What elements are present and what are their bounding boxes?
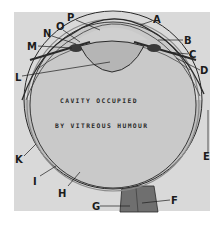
eye-cross-section-diagram: CAVITY OCCUPIED BY VITREOUS HUMOUR A B C…	[0, 0, 224, 227]
caption-line-2: BY VITREOUS HUMOUR	[55, 122, 148, 129]
label-e: E	[203, 151, 210, 162]
label-p: P	[67, 12, 74, 23]
label-m: M	[27, 41, 37, 52]
ciliary-body-right	[147, 44, 161, 52]
label-i: I	[33, 176, 37, 187]
label-b: B	[184, 35, 192, 46]
label-g: G	[92, 201, 100, 212]
caption-line-1: CAVITY OCCUPIED	[60, 97, 138, 104]
label-l: L	[15, 72, 22, 83]
label-f: F	[171, 195, 178, 206]
label-d: D	[200, 65, 208, 76]
label-c: C	[189, 49, 196, 60]
label-o: O	[56, 21, 65, 32]
label-n: N	[43, 28, 51, 39]
label-h: H	[58, 188, 66, 199]
label-a: A	[153, 14, 161, 25]
label-k: K	[15, 154, 24, 165]
